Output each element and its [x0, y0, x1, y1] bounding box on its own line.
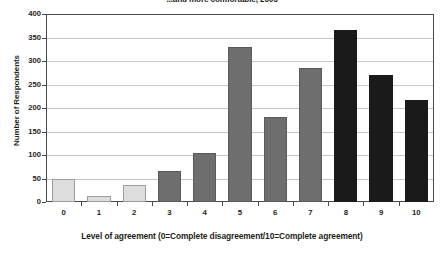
x-tick-mark-6 [293, 202, 294, 206]
y-tick-label-400: 400 [5, 10, 41, 18]
bar-0 [52, 179, 75, 203]
x-tick-mark-4 [222, 202, 223, 206]
x-tick-mark-8 [363, 202, 364, 206]
x-tick-label-9: 9 [367, 208, 395, 217]
bar-5 [228, 47, 251, 202]
bar-8 [334, 30, 357, 202]
x-tick-label-1: 1 [85, 208, 113, 217]
y-tick-mark-0 [42, 202, 46, 203]
y-tick-label-300: 300 [5, 57, 41, 65]
bar-chart: ...and more comfortable, 2005 Number of … [0, 0, 444, 253]
x-tick-mark-2 [152, 202, 153, 206]
x-tick-mark-7 [328, 202, 329, 206]
x-tick-mark-9 [399, 202, 400, 206]
y-tick-label-0: 0 [5, 198, 41, 206]
bar-7 [299, 68, 322, 202]
y-tick-label-100: 100 [5, 151, 41, 159]
bar-4 [193, 153, 216, 202]
x-tick-label-5: 5 [226, 208, 254, 217]
x-tick-label-7: 7 [297, 208, 325, 217]
x-tick-label-8: 8 [332, 208, 360, 217]
x-tick-mark-5 [258, 202, 259, 206]
bar-1 [87, 196, 110, 202]
chart-title: ...and more comfortable, 2005 [0, 0, 444, 4]
y-axis-title: Number of Respondents [12, 36, 21, 166]
bar-10 [405, 100, 428, 202]
bars-layer [46, 14, 434, 202]
x-tick-mark-1 [117, 202, 118, 206]
x-tick-label-3: 3 [155, 208, 183, 217]
x-tick-mark-0 [81, 202, 82, 206]
bar-3 [158, 171, 181, 202]
x-tick-label-0: 0 [50, 208, 78, 217]
bar-6 [264, 117, 287, 202]
bar-9 [369, 75, 392, 202]
y-tick-label-50: 50 [5, 175, 41, 183]
y-tick-label-250: 250 [5, 81, 41, 89]
x-tick-label-2: 2 [120, 208, 148, 217]
bar-2 [123, 185, 146, 202]
y-tick-label-350: 350 [5, 34, 41, 42]
x-tick-mark-3 [187, 202, 188, 206]
x-tick-label-4: 4 [191, 208, 219, 217]
y-tick-label-200: 200 [5, 104, 41, 112]
x-tick-label-6: 6 [261, 208, 289, 217]
y-tick-label-150: 150 [5, 128, 41, 136]
x-tick-label-10: 10 [402, 208, 430, 217]
x-axis-title: Level of agreement (0=Complete disagreem… [0, 231, 444, 241]
